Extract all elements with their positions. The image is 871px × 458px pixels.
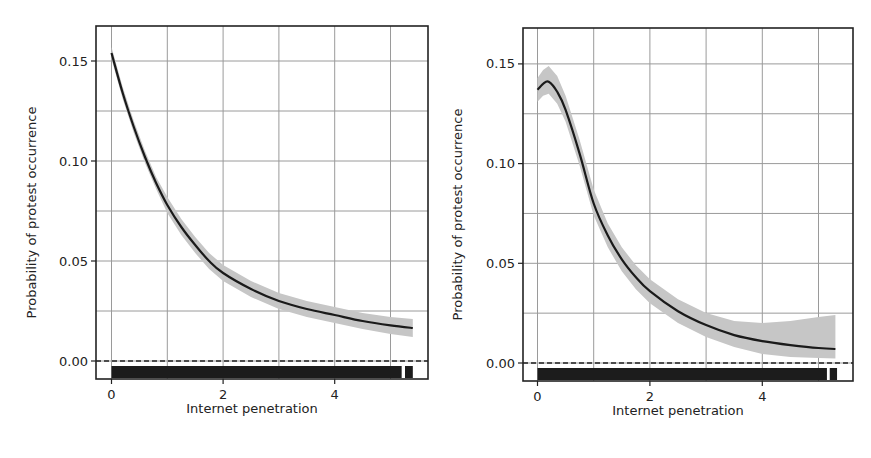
y-tick-label: 0.00 xyxy=(59,354,88,369)
right-rug-plot xyxy=(538,368,838,380)
right-chart-panel: 0.000.050.100.15 024 Probability of prot… xyxy=(450,28,853,418)
x-tick-label: 4 xyxy=(758,389,766,404)
right-y-axis-label: Probability of protest occurrence xyxy=(450,109,465,321)
rug-segment xyxy=(830,368,837,380)
y-tick-label: 0.15 xyxy=(59,54,88,69)
x-tick-label: 4 xyxy=(331,387,339,402)
x-tick-label: 0 xyxy=(107,387,115,402)
x-tick-label: 2 xyxy=(646,389,654,404)
right-x-axis-ticks: 024 xyxy=(533,381,766,404)
y-tick-label: 0.10 xyxy=(486,156,515,171)
y-tick-label: 0.05 xyxy=(59,254,88,269)
y-tick-label: 0.05 xyxy=(486,256,515,271)
x-tick-label: 2 xyxy=(219,387,227,402)
y-tick-label: 0.15 xyxy=(486,56,515,71)
left-x-axis-label: Internet penetration xyxy=(186,401,318,416)
rug-segment xyxy=(112,366,402,378)
right-y-axis-ticks: 0.000.050.100.15 xyxy=(486,56,523,370)
left-y-axis-label: Probability of protest occurrence xyxy=(24,107,39,319)
right-x-axis-label: Internet penetration xyxy=(612,403,744,418)
left-chart-panel: 0.000.050.100.15 024 Probability of prot… xyxy=(24,26,428,416)
y-tick-label: 0.10 xyxy=(59,154,88,169)
figure: 0.000.050.100.15 024 Probability of prot… xyxy=(0,0,871,458)
left-x-axis-ticks: 024 xyxy=(107,379,338,402)
left-y-axis-ticks: 0.000.050.100.15 xyxy=(59,54,96,369)
rug-segment xyxy=(405,366,413,378)
rug-segment xyxy=(538,368,827,380)
left-rug-plot xyxy=(112,366,413,378)
y-tick-label: 0.00 xyxy=(486,356,515,371)
x-tick-label: 0 xyxy=(533,389,541,404)
